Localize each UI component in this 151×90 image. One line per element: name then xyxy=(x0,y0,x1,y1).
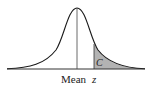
shaded-area-label: C xyxy=(96,57,103,68)
bell-curve xyxy=(7,8,145,69)
normal-curve-diagram: C Mean z xyxy=(0,0,151,90)
z-label: z xyxy=(91,73,97,85)
mean-label: Mean xyxy=(61,73,87,85)
